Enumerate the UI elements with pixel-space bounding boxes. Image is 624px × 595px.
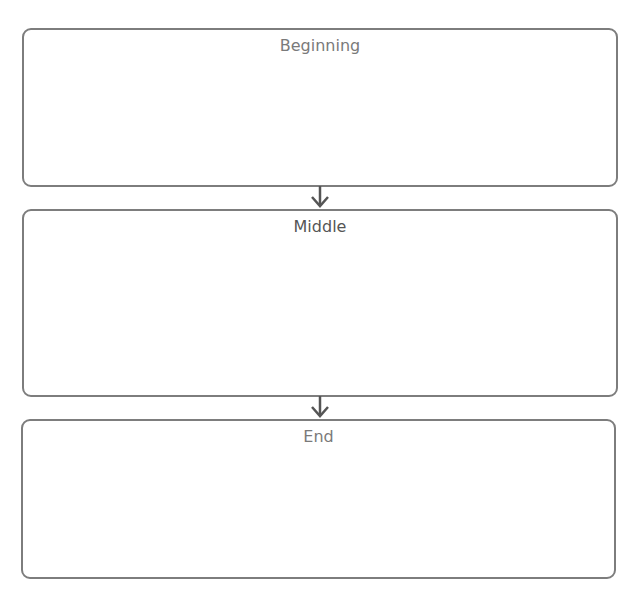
middle-box: Middle (22, 209, 618, 397)
beginning-label: Beginning (24, 36, 616, 55)
beginning-box: Beginning (22, 28, 618, 187)
end-label: End (23, 427, 614, 446)
end-box: End (21, 419, 616, 579)
middle-label: Middle (24, 217, 616, 236)
arrow-down-icon (310, 396, 330, 420)
arrow-down-icon (310, 186, 330, 210)
